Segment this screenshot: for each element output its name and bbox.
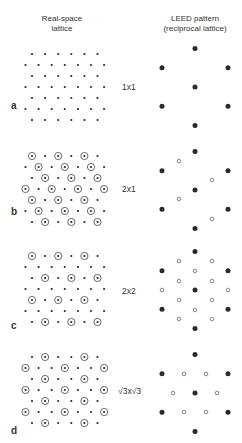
- substrate-atom: [24, 310, 26, 312]
- substrate-atom: [77, 411, 79, 413]
- integer-order-spot: [226, 307, 231, 312]
- integer-order-spot: [160, 104, 165, 109]
- substrate-atom: [51, 389, 53, 391]
- integer-order-spot: [160, 371, 165, 376]
- integer-order-spot: [193, 46, 198, 51]
- substrate-atom: [44, 155, 46, 157]
- substrate-atom: [31, 255, 33, 257]
- substrate-atom: [83, 155, 85, 157]
- substrate-atom: [44, 277, 46, 279]
- substrate-atom: [70, 321, 72, 323]
- substrate-atom: [51, 310, 53, 312]
- fractional-order-spot: [210, 259, 214, 263]
- substrate-atom: [77, 64, 79, 66]
- substrate-atom: [83, 53, 85, 55]
- substrate-atom: [96, 321, 98, 323]
- substrate-atom: [64, 310, 66, 312]
- substrate-atom: [51, 64, 53, 66]
- fractional-order-spot: [204, 372, 208, 376]
- substrate-atom: [83, 400, 85, 402]
- substrate-atom: [38, 367, 40, 369]
- fractional-order-spot: [210, 298, 214, 302]
- substrate-atom: [83, 119, 85, 121]
- substrate-atom: [96, 378, 98, 380]
- integer-order-spot: [193, 188, 198, 193]
- substrate-atom: [38, 188, 40, 190]
- substrate-atom: [103, 64, 105, 66]
- substrate-atom: [64, 367, 66, 369]
- substrate-atom: [44, 53, 46, 55]
- fractional-order-spot: [177, 159, 181, 163]
- substrate-atom: [96, 97, 98, 99]
- substrate-atom: [31, 199, 33, 201]
- substrate-atom: [44, 299, 46, 301]
- substrate-atom: [24, 411, 26, 413]
- fractional-order-spot: [177, 259, 181, 263]
- substrate-atom: [90, 288, 92, 290]
- fractional-order-spot: [182, 410, 186, 414]
- substrate-atom: [96, 356, 98, 358]
- substrate-atom: [64, 210, 66, 212]
- substrate-atom: [96, 155, 98, 157]
- substrate-atom: [57, 53, 59, 55]
- substrate-atom: [90, 367, 92, 369]
- substrate-atom: [70, 155, 72, 157]
- substrate-atom: [90, 266, 92, 268]
- substrate-atom: [70, 97, 72, 99]
- substrate-atom: [31, 356, 33, 358]
- substrate-atom: [57, 199, 59, 201]
- substrate-atom: [64, 166, 66, 168]
- fractional-order-spot: [193, 269, 197, 273]
- substrate-atom: [70, 199, 72, 201]
- substrate-atom: [57, 400, 59, 402]
- integer-order-spot: [193, 85, 198, 90]
- integer-order-spot: [226, 65, 231, 70]
- substrate-atom: [90, 389, 92, 391]
- integer-order-spot: [193, 391, 198, 396]
- substrate-atom: [31, 400, 33, 402]
- substrate-atom: [31, 53, 33, 55]
- substrate-atom: [77, 310, 79, 312]
- substrate-atom: [77, 108, 79, 110]
- substrate-atom: [70, 255, 72, 257]
- integer-order-spot: [160, 307, 165, 312]
- fractional-order-spot: [210, 178, 214, 182]
- integer-order-spot: [193, 429, 198, 434]
- substrate-atom: [96, 199, 98, 201]
- substrate-atom: [57, 75, 59, 77]
- fractional-order-spot: [177, 298, 181, 302]
- integer-order-spot: [160, 268, 165, 273]
- substrate-atom: [103, 367, 105, 369]
- substrate-atom: [44, 97, 46, 99]
- substrate-atom: [90, 64, 92, 66]
- integer-order-spot: [226, 104, 231, 109]
- substrate-atom: [44, 255, 46, 257]
- substrate-atom: [64, 411, 66, 413]
- substrate-atom: [38, 210, 40, 212]
- integer-order-spot: [193, 326, 198, 331]
- substrate-atom: [44, 378, 46, 380]
- substrate-atom: [24, 108, 26, 110]
- substrate-atom: [31, 321, 33, 323]
- integer-order-spot: [160, 410, 165, 415]
- substrate-atom: [96, 75, 98, 77]
- integer-order-spot: [193, 123, 198, 128]
- integer-order-spot: [226, 410, 231, 415]
- substrate-atom: [103, 166, 105, 168]
- substrate-atom: [90, 411, 92, 413]
- substrate-atom: [90, 310, 92, 312]
- substrate-atom: [38, 166, 40, 168]
- substrate-atom: [24, 389, 26, 391]
- substrate-atom: [64, 108, 66, 110]
- substrate-atom: [77, 389, 79, 391]
- substrate-atom: [96, 400, 98, 402]
- substrate-atom: [70, 221, 72, 223]
- substrate-atom: [38, 108, 40, 110]
- substrate-atom: [51, 166, 53, 168]
- substrate-atom: [24, 266, 26, 268]
- substrate-atom: [83, 356, 85, 358]
- fractional-order-spot: [210, 217, 214, 221]
- substrate-atom: [44, 199, 46, 201]
- fractional-order-spot: [193, 308, 197, 312]
- substrate-atom: [103, 411, 105, 413]
